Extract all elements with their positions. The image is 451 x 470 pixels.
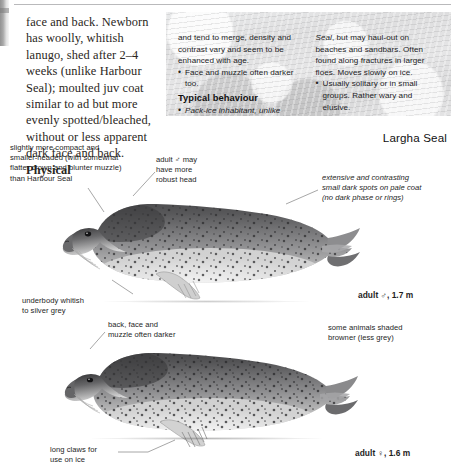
panel-italic-seal-word: Seal — [316, 33, 332, 42]
body-paragraph-text: face and back. Newborn has woolly, whiti… — [26, 15, 151, 160]
annotation-back-face-darker: back, face and muzzle often darker — [108, 320, 218, 340]
panel-bullet-pack-ice: Pack-ice inhabitant, unlike Harbour — [178, 105, 304, 116]
plate-page: face and back. Newborn has woolly, whiti… — [0, 0, 451, 470]
seal-eye-upper — [85, 232, 91, 237]
seal-eye-lower — [87, 378, 93, 383]
info-panel-left-column: and tend to merge, density and contrast … — [178, 32, 304, 116]
seal-upper-ground-shadow — [104, 300, 309, 303]
panel-right-rest: , but may haul-out on beaches and sandba… — [316, 33, 425, 77]
seal-illustration-adult-female — [60, 340, 360, 450]
panel-bullet-solitary: Usually solitary or in small groups. Rat… — [316, 78, 442, 113]
seal-illustration-adult-male — [60, 186, 360, 311]
seal-lower-ground-shadow — [92, 437, 322, 440]
annotation-robust-head: adult ♂ may have more robust head — [156, 155, 226, 186]
caption-adult-female-size: adult ♀, 1.6 m — [355, 448, 410, 458]
info-panel-right-column: Seal, but may haul-out on beaches and sa… — [316, 32, 442, 116]
panel-continued-text: and tend to merge, density and contrast … — [178, 32, 304, 67]
annotation-compact-smaller-headed: slightly more compact and smaller-headed… — [10, 143, 160, 184]
plate-title: Largha Seal — [383, 131, 447, 144]
panel-heading-typical-behaviour: Typical behaviour — [178, 92, 304, 104]
panel-continued-text-right: Seal, but may haul-out on beaches and sa… — [316, 32, 442, 78]
info-panel: and tend to merge, density and contrast … — [166, 12, 451, 116]
caption-adult-male-size: adult ♂, 1.7 m — [358, 290, 413, 300]
top-divider-rule — [14, 4, 451, 5]
page-binding-artifact — [0, 0, 9, 46]
panel-bullet-face-muzzle: Face and muzzle often darker too. — [178, 67, 304, 90]
